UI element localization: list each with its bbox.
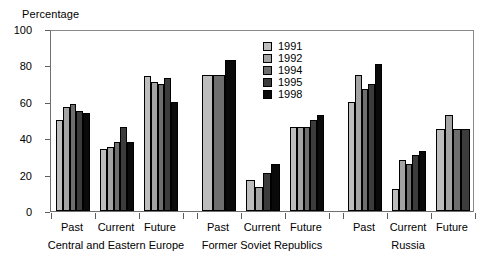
bar bbox=[412, 155, 419, 211]
y-tick-label: 100 bbox=[0, 24, 41, 36]
x-tick-mark bbox=[183, 213, 184, 219]
bar bbox=[114, 142, 121, 211]
legend-item: 1992 bbox=[263, 53, 302, 64]
bar bbox=[70, 104, 77, 211]
legend: 19911992199419951998 bbox=[263, 41, 302, 101]
x-tick-mark bbox=[197, 213, 198, 219]
x-axis-group-label: Russia bbox=[391, 239, 425, 251]
bar bbox=[100, 149, 107, 211]
bar bbox=[120, 127, 127, 211]
bar bbox=[436, 129, 444, 211]
bar bbox=[263, 173, 271, 211]
legend-swatch-icon bbox=[263, 54, 272, 63]
bar bbox=[348, 102, 355, 211]
x-axis-label: Past bbox=[207, 221, 229, 233]
x-axis-label: Current bbox=[98, 221, 135, 233]
y-tick-label: 60 bbox=[0, 97, 41, 109]
y-tick-label: 20 bbox=[0, 170, 41, 182]
legend-swatch-icon bbox=[263, 42, 272, 51]
bar-chart: Percentage 020406080100 PastCurrentFutur… bbox=[0, 0, 491, 273]
x-axis-group-label: Central and Eastern Europe bbox=[48, 239, 184, 251]
x-axis-label: Future bbox=[144, 221, 176, 233]
bar bbox=[164, 78, 171, 211]
x-tick-mark bbox=[139, 213, 140, 219]
x-tick-mark bbox=[241, 213, 242, 219]
x-tick-mark bbox=[343, 213, 344, 219]
bar bbox=[406, 164, 413, 211]
legend-item-label: 1992 bbox=[278, 53, 302, 64]
bar bbox=[317, 115, 324, 211]
x-tick-mark bbox=[285, 213, 286, 219]
y-tick-mark bbox=[45, 176, 50, 177]
legend-item-label: 1998 bbox=[278, 89, 302, 100]
y-tick-label: 80 bbox=[0, 60, 41, 72]
legend-item-label: 1995 bbox=[278, 77, 302, 88]
y-tick-mark bbox=[45, 212, 50, 213]
y-axis-title: Percentage bbox=[22, 8, 79, 20]
bar bbox=[271, 164, 279, 211]
bar bbox=[127, 142, 134, 211]
bar bbox=[171, 102, 178, 211]
legend-item: 1994 bbox=[263, 65, 302, 76]
bar bbox=[63, 107, 70, 211]
y-tick-mark bbox=[45, 103, 50, 104]
legend-swatch-icon bbox=[263, 78, 272, 87]
x-axis-label: Current bbox=[390, 221, 427, 233]
x-axis-label: Past bbox=[61, 221, 83, 233]
x-tick-mark bbox=[329, 213, 330, 219]
x-axis-label: Future bbox=[290, 221, 322, 233]
bars-layer bbox=[51, 31, 473, 211]
bar bbox=[362, 89, 369, 211]
bar bbox=[225, 60, 236, 211]
bar bbox=[213, 75, 224, 212]
legend-item: 1995 bbox=[263, 77, 302, 88]
bar bbox=[310, 120, 317, 211]
bar bbox=[304, 127, 311, 211]
bar bbox=[76, 111, 83, 211]
bar bbox=[246, 180, 254, 211]
x-axis-group-label: Former Soviet Republics bbox=[202, 239, 322, 251]
x-axis-label: Past bbox=[353, 221, 375, 233]
bar bbox=[453, 129, 461, 211]
bar bbox=[375, 64, 382, 211]
bar bbox=[56, 120, 63, 211]
legend-swatch-icon bbox=[263, 90, 272, 99]
y-tick-label: 0 bbox=[0, 206, 41, 218]
bar bbox=[461, 129, 469, 211]
plot-area bbox=[50, 30, 474, 212]
x-axis-label: Current bbox=[244, 221, 281, 233]
bar bbox=[151, 82, 158, 211]
bar bbox=[419, 151, 426, 211]
bar bbox=[399, 160, 406, 211]
x-axis-label: Future bbox=[436, 221, 468, 233]
legend-item: 1991 bbox=[263, 41, 302, 52]
bar bbox=[392, 189, 399, 211]
legend-swatch-icon bbox=[263, 66, 272, 75]
bar bbox=[158, 84, 165, 211]
bar bbox=[83, 113, 90, 211]
legend-item: 1998 bbox=[263, 89, 302, 100]
x-tick-mark bbox=[51, 213, 52, 219]
y-tick-mark bbox=[45, 139, 50, 140]
bar bbox=[445, 115, 453, 211]
legend-item-label: 1994 bbox=[278, 65, 302, 76]
bar bbox=[297, 127, 304, 211]
x-tick-mark bbox=[95, 213, 96, 219]
y-tick-mark bbox=[45, 66, 50, 67]
bar bbox=[144, 76, 151, 211]
bar bbox=[355, 75, 362, 212]
x-tick-mark bbox=[431, 213, 432, 219]
y-tick-mark bbox=[45, 30, 50, 31]
legend-item-label: 1991 bbox=[278, 41, 302, 52]
bar bbox=[368, 84, 375, 211]
bar bbox=[107, 147, 114, 211]
bar bbox=[202, 75, 213, 212]
bar bbox=[255, 187, 263, 211]
x-tick-mark bbox=[387, 213, 388, 219]
y-tick-label: 40 bbox=[0, 133, 41, 145]
x-tick-mark bbox=[475, 213, 476, 219]
bar bbox=[290, 127, 297, 211]
